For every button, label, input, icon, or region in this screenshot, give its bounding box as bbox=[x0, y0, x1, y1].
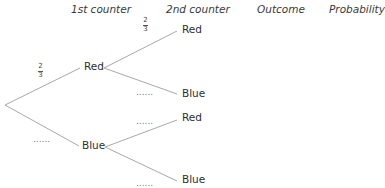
node-second-blue-after-blue: Blue bbox=[182, 173, 205, 185]
header-second-counter: 2nd counter bbox=[166, 3, 230, 15]
node-first-blue: Blue bbox=[82, 139, 105, 151]
prob-root-blue-blank: ...... bbox=[33, 134, 50, 144]
node-first-red: Red bbox=[84, 60, 104, 72]
branch-red-red bbox=[104, 31, 177, 68]
prob-blue-blue-blank: ...... bbox=[136, 178, 153, 188]
prob-root-red: 2 3 bbox=[38, 63, 43, 79]
prob-red-red: 2 3 bbox=[143, 17, 148, 33]
node-second-red-after-red: Red bbox=[182, 23, 202, 35]
node-second-red-after-blue: Red bbox=[182, 111, 202, 123]
branch-blue-blue bbox=[105, 147, 177, 181]
header-first-counter: 1st counter bbox=[71, 3, 131, 15]
prob-red-blue-blank: ...... bbox=[136, 87, 153, 97]
prob-blue-red-blank: ...... bbox=[136, 116, 153, 126]
header-outcome: Outcome bbox=[257, 3, 305, 15]
node-second-blue-after-red: Blue bbox=[182, 87, 205, 99]
header-probability: Probability bbox=[329, 3, 385, 15]
